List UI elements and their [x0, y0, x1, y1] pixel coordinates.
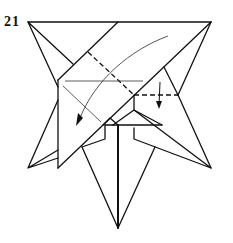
center-inner-fold: [103, 95, 162, 125]
curved-arrow-head: [76, 113, 83, 126]
left-upper-flap: [28, 22, 73, 87]
down-arrow-head: [156, 101, 162, 109]
center-shelf-left: [82, 125, 105, 147]
left-lower-flap: [28, 100, 58, 168]
origami-diagram: 21: [0, 0, 233, 243]
right-lower-edge: [134, 110, 211, 168]
bottom-point-right: [118, 147, 155, 228]
bottom-point-left: [82, 147, 118, 228]
diagonal-reference-line: [63, 86, 101, 122]
right-upper-flap: [178, 22, 211, 95]
right-inner-edge: [164, 67, 178, 95]
origami-figure: [0, 0, 233, 243]
